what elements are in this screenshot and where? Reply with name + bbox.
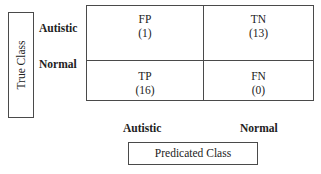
cell-tp: TP (16)	[87, 61, 204, 100]
cell-fp: FP (1)	[87, 6, 204, 61]
cell-fn: FN (0)	[204, 61, 313, 100]
cell-count: (0)	[204, 83, 313, 97]
cell-count: (16)	[87, 83, 203, 97]
cell-count: (13)	[204, 26, 313, 40]
row-label-autistic: Autistic	[39, 22, 77, 34]
col-label-normal: Normal	[240, 122, 278, 134]
cell-abbr: FN	[204, 69, 313, 83]
cell-count: (1)	[87, 26, 203, 40]
cell-tn: TN (13)	[204, 6, 313, 61]
cell-abbr: FP	[87, 12, 203, 26]
confusion-matrix: FP (1) TN (13) TP (16) FN (0)	[86, 5, 314, 101]
true-class-axis-box: True Class	[8, 12, 34, 118]
predicated-class-label: Predicated Class	[155, 147, 231, 159]
true-class-label: True Class	[15, 40, 27, 89]
cell-abbr: TN	[204, 12, 313, 26]
col-label-autistic: Autistic	[123, 122, 161, 134]
row-label-normal: Normal	[39, 58, 77, 70]
cell-abbr: TP	[87, 69, 203, 83]
predicated-class-axis-box: Predicated Class	[128, 142, 258, 165]
